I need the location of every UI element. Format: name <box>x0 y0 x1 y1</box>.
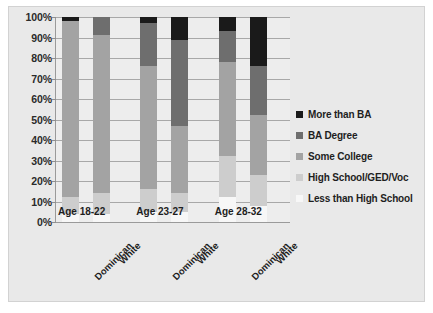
bar-segment[interactable] <box>140 17 157 23</box>
y-tick-mark <box>52 79 56 80</box>
y-axis-tick-label: 30% <box>6 155 52 167</box>
y-tick-mark <box>52 140 56 141</box>
y-tick-mark <box>52 181 56 182</box>
y-axis-tick-label: 90% <box>6 32 52 44</box>
y-tick-mark <box>52 202 56 203</box>
gridline <box>56 222 290 223</box>
legend-swatch-icon <box>296 195 303 202</box>
bar-segment[interactable] <box>250 175 267 206</box>
y-tick-mark <box>52 58 56 59</box>
y-axis-tick-label: 20% <box>6 175 52 187</box>
legend-item[interactable]: BA Degree <box>296 125 426 146</box>
y-tick-mark <box>52 17 56 18</box>
legend-item[interactable]: Less than High School <box>296 188 426 209</box>
y-axis-tick-label: 60% <box>6 93 52 105</box>
legend-swatch-icon <box>296 153 303 160</box>
y-axis-tick-label: 0% <box>6 216 52 228</box>
bar-segment[interactable] <box>250 115 267 174</box>
legend-label: More than BA <box>308 109 371 120</box>
y-tick-mark <box>52 38 56 39</box>
y-tick-mark <box>52 99 56 100</box>
y-tick-mark <box>52 222 56 223</box>
bar-segment[interactable] <box>219 31 236 62</box>
legend-swatch-icon <box>296 132 303 139</box>
group-label-age-23-27: Age 23-27 <box>136 206 183 217</box>
stacked-bar[interactable] <box>219 17 236 222</box>
group-label-age-18-22: Age 18-22 <box>58 206 105 217</box>
legend-item[interactable]: More than BA <box>296 104 426 125</box>
legend-label: Less than High School <box>308 193 413 204</box>
plot-area <box>55 17 290 222</box>
legend-swatch-icon <box>296 111 303 118</box>
chart-container: 0%10%20%30%40%50%60%70%80%90%100% Age 18… <box>0 0 433 313</box>
stacked-bar[interactable] <box>93 17 110 222</box>
stacked-bar[interactable] <box>62 17 79 222</box>
bar-segment[interactable] <box>62 17 79 21</box>
bar-segment[interactable] <box>140 23 157 66</box>
bar-segment[interactable] <box>62 21 79 197</box>
y-axis-tick-label: 10% <box>6 196 52 208</box>
bar-segment[interactable] <box>140 66 157 189</box>
legend-label: BA Degree <box>308 130 357 141</box>
legend-item[interactable]: High School/GED/Voc <box>296 167 426 188</box>
bar-segment[interactable] <box>171 126 188 194</box>
legend-item[interactable]: Some College <box>296 146 426 167</box>
y-axis-tick-label: 40% <box>6 134 52 146</box>
bar-segment[interactable] <box>171 17 188 40</box>
y-axis-tick-label: 80% <box>6 52 52 64</box>
bar-segment[interactable] <box>93 35 110 193</box>
stacked-bar[interactable] <box>171 17 188 222</box>
bar-segment[interactable] <box>250 66 267 115</box>
bar-segment[interactable] <box>219 62 236 156</box>
y-axis-tick-label: 50% <box>6 114 52 126</box>
stacked-bar[interactable] <box>140 17 157 222</box>
bar-segment[interactable] <box>93 17 110 35</box>
bar-segment[interactable] <box>250 17 267 66</box>
y-axis-tick-label: 100% <box>6 11 52 23</box>
y-axis-labels: 0%10%20%30%40%50%60%70%80%90%100% <box>0 17 52 222</box>
y-tick-mark <box>52 120 56 121</box>
stacked-bar[interactable] <box>250 17 267 222</box>
chart-legend: More than BABA DegreeSome CollegeHigh Sc… <box>296 104 426 209</box>
y-tick-mark <box>52 161 56 162</box>
bar-segment[interactable] <box>219 156 236 197</box>
legend-swatch-icon <box>296 174 303 181</box>
legend-label: High School/GED/Voc <box>308 172 408 183</box>
y-axis-tick-label: 70% <box>6 73 52 85</box>
bar-segment[interactable] <box>219 17 236 31</box>
bar-segment[interactable] <box>171 40 188 126</box>
group-label-age-28-32: Age 28-32 <box>215 206 262 217</box>
legend-label: Some College <box>308 151 372 162</box>
